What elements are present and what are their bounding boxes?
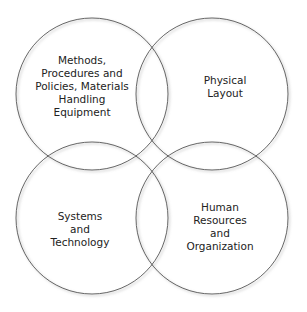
label-systems-technology: Systems and Technology (45, 210, 115, 249)
label-line: and (180, 227, 260, 240)
label-human-resources: Human Resources and Organization (180, 201, 260, 253)
label-line: Policies, Materials (26, 80, 138, 93)
label-line: Procedures and (26, 67, 138, 80)
label-line: Layout (190, 87, 260, 100)
label-line: Methods, (26, 54, 138, 67)
label-line: and (45, 223, 115, 236)
label-line: Organization (180, 240, 260, 253)
label-line: Physical (190, 74, 260, 87)
label-line: Equipment (26, 106, 138, 119)
label-line: Handling (26, 93, 138, 106)
label-physical-layout: Physical Layout (190, 74, 260, 100)
label-line: Technology (45, 236, 115, 249)
venn-diagram (0, 0, 307, 312)
label-line: Systems (45, 210, 115, 223)
label-line: Resources (180, 214, 260, 227)
label-line: Human (180, 201, 260, 214)
label-methods: Methods, Procedures and Policies, Materi… (26, 54, 138, 119)
